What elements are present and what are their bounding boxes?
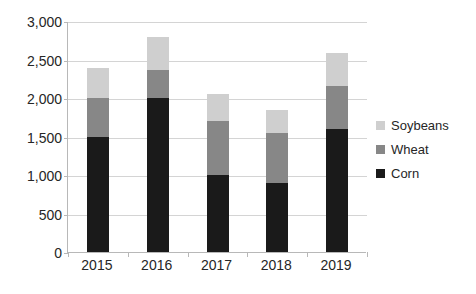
gridline	[68, 61, 367, 62]
x-axis-tick-label: 2019	[306, 258, 367, 272]
x-axis-tick-label: 2015	[66, 258, 127, 272]
legend-item-corn[interactable]: Corn	[376, 161, 476, 185]
x-axis-tick-mark	[128, 252, 129, 257]
gridline	[68, 22, 367, 23]
bar-segment-soybeans	[87, 68, 109, 98]
x-axis-tick-mark	[68, 252, 69, 257]
x-axis-tick-label: 2018	[246, 258, 307, 272]
bar-stack	[207, 94, 229, 252]
y-axis-tick-mark	[64, 215, 68, 216]
bar-segment-soybeans	[147, 37, 169, 70]
x-axis-tick-mark	[247, 252, 248, 257]
bar-segment-wheat	[87, 98, 109, 137]
y-axis-tick-mark	[64, 138, 68, 139]
bar-segment-corn	[207, 175, 229, 252]
legend-swatch-icon	[376, 169, 385, 178]
bar-stack	[266, 110, 288, 252]
chart-legend: SoybeansWheatCorn	[376, 113, 476, 185]
x-axis-tick-mark	[188, 252, 189, 257]
bar-stack	[147, 37, 169, 252]
legend-label: Soybeans	[391, 119, 449, 132]
bar-segment-wheat	[266, 133, 288, 183]
y-axis-tick-mark	[64, 22, 68, 23]
legend-item-soybeans[interactable]: Soybeans	[376, 113, 476, 137]
bar-segment-corn	[147, 98, 169, 252]
bar-segment-corn	[87, 137, 109, 253]
x-axis-tick-mark	[307, 252, 308, 257]
bar-segment-soybeans	[207, 94, 229, 121]
y-axis-tick-label: 2,000	[6, 92, 62, 106]
x-axis-tick-label: 2016	[126, 258, 187, 272]
bar-segment-corn	[326, 129, 348, 252]
legend-item-wheat[interactable]: Wheat	[376, 137, 476, 161]
stacked-bar-chart: 3,0002,5002,0001,5001,0005000 2015201620…	[0, 0, 476, 294]
legend-swatch-icon	[376, 121, 385, 130]
y-axis-tick-label: 3,000	[6, 15, 62, 29]
bar-segment-soybeans	[326, 53, 348, 87]
bar-segment-wheat	[207, 121, 229, 175]
y-axis-tick-mark	[64, 61, 68, 62]
y-axis-tick-label: 1,500	[6, 131, 62, 145]
bar-segment-wheat	[147, 70, 169, 98]
y-axis-tick-label: 500	[6, 208, 62, 222]
bar-segment-soybeans	[266, 110, 288, 132]
y-axis-tick-mark	[64, 99, 68, 100]
legend-swatch-icon	[376, 145, 385, 154]
y-axis-tick-mark	[64, 176, 68, 177]
x-axis-tick-mark	[367, 252, 368, 257]
plot-area	[67, 22, 366, 253]
bar-segment-wheat	[326, 86, 348, 128]
bar-segment-corn	[266, 183, 288, 252]
bar-stack	[87, 68, 109, 252]
legend-label: Wheat	[391, 143, 429, 156]
y-axis-tick-label: 2,500	[6, 54, 62, 68]
y-axis-tick-label: 1,000	[6, 169, 62, 183]
legend-label: Corn	[391, 167, 419, 180]
bar-stack	[326, 53, 348, 252]
x-axis-tick-label: 2017	[186, 258, 247, 272]
y-axis-tick-label: 0	[6, 246, 62, 260]
